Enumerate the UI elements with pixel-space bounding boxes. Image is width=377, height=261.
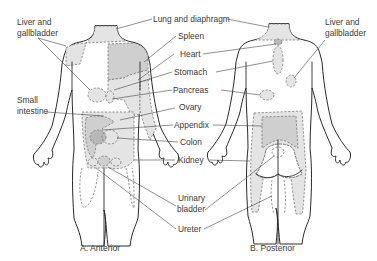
label-small-intestine-1: Small — [17, 95, 38, 105]
label-liver-gallbladder-right-1: Liver and — [325, 17, 360, 27]
anterior-ovary-left — [88, 158, 98, 166]
posterior-stomach-zone — [273, 46, 283, 74]
label-urinary-bladder-2: bladder — [177, 204, 205, 214]
label-kidney: Kidney — [178, 155, 204, 165]
anterior-liver-oval — [88, 88, 106, 102]
caption-anterior: A. Anterior — [80, 243, 120, 253]
posterior-liver-gallbladder-zone — [286, 75, 296, 87]
label-ovary: Ovary — [179, 102, 202, 112]
anterior-appendix-zone — [90, 130, 106, 144]
referred-pain-diagram: Liver and gallbladder Lung and diaphragm… — [0, 0, 377, 261]
posterior-figure — [207, 24, 350, 244]
posterior-pancreas-zone — [260, 90, 274, 100]
caption-posterior: B. Posterior — [250, 243, 295, 253]
label-lung-diaphragm: Lung and diaphragm — [153, 14, 230, 24]
label-colon: Colon — [180, 137, 202, 147]
leader-lung-anterior — [116, 19, 152, 29]
label-ureter: Ureter — [178, 224, 201, 234]
label-stomach: Stomach — [174, 67, 207, 77]
anterior-figure — [33, 26, 178, 246]
leader-spleen — [144, 36, 176, 62]
anterior-lung-diaphragm-zone — [86, 26, 126, 43]
label-liver-gallbladder-left-1: Liver and — [17, 17, 52, 27]
label-spleen: Spleen — [178, 31, 204, 41]
anterior-urinary-bladder — [98, 156, 110, 166]
anterior-pancreas-oval — [106, 91, 114, 103]
label-appendix: Appendix — [174, 120, 210, 130]
posterior-lung-diaphragm-zone — [256, 24, 300, 40]
leader-lung-posterior — [227, 19, 268, 27]
label-pancreas: Pancreas — [173, 85, 208, 95]
label-liver-gallbladder-right-2: gallbladder — [325, 28, 366, 38]
label-heart: Heart — [180, 49, 201, 59]
label-liver-gallbladder-left-2: gallbladder — [17, 28, 58, 38]
anterior-ovary-right — [111, 158, 121, 166]
label-urinary-bladder-1: Urinary — [178, 193, 206, 203]
label-small-intestine-2: intestine — [17, 106, 49, 116]
